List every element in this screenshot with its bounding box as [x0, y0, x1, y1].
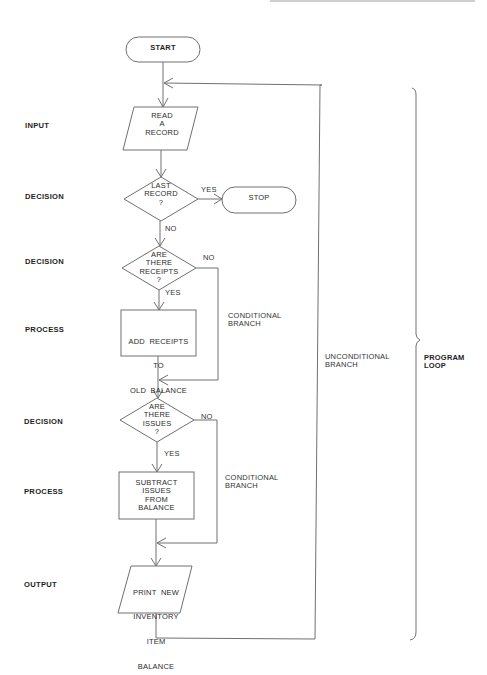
conditional-branch-1-line-2: BRANCH: [228, 320, 281, 328]
edge-label-last-yes: YES: [201, 186, 217, 194]
conditional-branch-label-1: CONDITIONAL BRANCH: [228, 312, 281, 329]
add-receipts-label: ADD RECEIPTS TO OLD BALANCE: [121, 321, 196, 404]
conditional-branch-2-line-2: BRANCH: [225, 482, 278, 490]
program-loop-line-2: LOOP: [424, 362, 465, 370]
edge-label-receipts-no: NO: [203, 254, 215, 262]
add-receipts-line-2: TO: [121, 362, 196, 370]
add-receipts-line-3: OLD BALANCE: [121, 387, 196, 395]
row-label-output: OUTPUT: [24, 580, 57, 589]
receipts-line-4: ?: [129, 276, 189, 284]
receipts-decision-label: ARE THERE RECEIPTS ?: [129, 251, 189, 284]
row-label-input: INPUT: [25, 121, 49, 130]
stop-label: STOP: [222, 194, 296, 202]
subtract-issues-label: SUBTRACT ISSUES FROM BALANCE: [119, 479, 194, 512]
issues-line-4: ?: [127, 428, 187, 436]
edge-label-issues-no: NO: [201, 413, 213, 421]
print-balance-label: PRINT NEW INVENTORY ITEM BALANCE: [124, 572, 188, 675]
add-receipts-line-1: ADD RECEIPTS: [121, 338, 196, 346]
row-label-process-1: PROCESS: [25, 325, 64, 334]
last-record-label: LAST RECORD ?: [131, 182, 191, 207]
program-loop-label: PROGRAM LOOP: [424, 354, 465, 371]
edge-label-receipts-yes: YES: [165, 289, 181, 297]
unconditional-branch-line-2: BRANCH: [325, 361, 390, 369]
print-line-3: ITEM: [124, 638, 188, 646]
read-record-label: READ A RECORD: [131, 112, 193, 137]
conditional-branch-label-2: CONDITIONAL BRANCH: [225, 474, 278, 491]
unconditional-branch-label: UNCONDITIONAL BRANCH: [325, 353, 390, 370]
read-record-line-3: RECORD: [131, 129, 193, 137]
start-label: START: [126, 44, 200, 52]
row-label-process-2: PROCESS: [24, 487, 63, 496]
row-label-decision-2: DECISION: [25, 257, 64, 266]
print-line-1: PRINT NEW: [124, 589, 188, 597]
row-label-decision-1: DECISION: [25, 192, 64, 201]
last-record-line-3: ?: [131, 199, 191, 207]
edge-label-last-no: NO: [165, 225, 177, 233]
print-line-2: INVENTORY: [124, 613, 188, 621]
subtract-line-4: BALANCE: [119, 504, 194, 512]
flowchart-lines: [0, 0, 487, 675]
print-line-4: BALANCE: [124, 663, 188, 671]
edge-label-issues-yes: YES: [164, 450, 180, 458]
row-label-decision-3: DECISION: [24, 417, 63, 426]
issues-decision-label: ARE THERE ISSUES ?: [127, 403, 187, 436]
